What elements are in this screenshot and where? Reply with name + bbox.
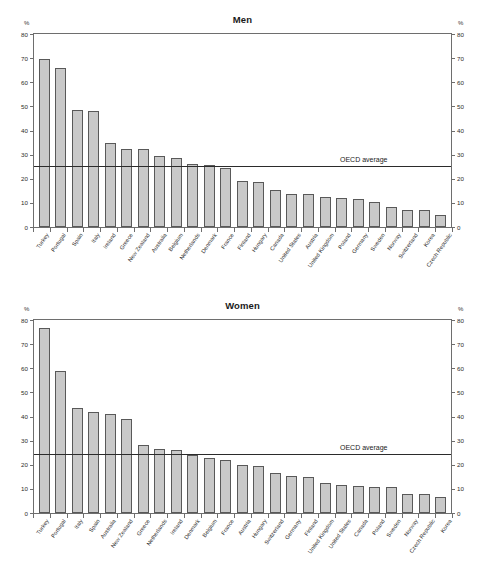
- y-axis-tick-label-left: 70: [14, 55, 28, 62]
- x-axis-labels-women: TurkeyPortugalItalySpainAustraliaNew Zea…: [33, 518, 452, 570]
- bar: [435, 215, 446, 227]
- x-axis-label: Turkey: [36, 518, 51, 536]
- y-axis-unit-left-men: %: [24, 20, 29, 26]
- y-axis-tick-label-right: 50: [457, 103, 471, 110]
- bar: [121, 149, 132, 227]
- x-axis-label: Canada: [352, 518, 368, 538]
- y-axis-unit-left-women: %: [24, 306, 29, 312]
- x-axis-label: Greece: [118, 232, 134, 251]
- bar: [402, 494, 413, 513]
- bar: [39, 59, 50, 227]
- y-axis-tickmark-left: [30, 131, 33, 132]
- x-axis-label: Hungary: [251, 232, 268, 253]
- y-axis-tick-label-right: 40: [457, 413, 471, 420]
- bar: [303, 477, 314, 513]
- y-axis-tick-label-right: 80: [457, 317, 471, 324]
- bar: [72, 110, 83, 227]
- y-axis-tick-label-left: 10: [14, 485, 28, 492]
- y-axis-tickmark-left: [30, 34, 33, 35]
- y-axis-tick-label-left: 80: [14, 317, 28, 324]
- x-axis-label: Sweden: [386, 518, 403, 538]
- y-axis-tickmark-left: [30, 155, 33, 156]
- y-axis-tickmark-left: [30, 179, 33, 180]
- y-axis-tickmark-left: [30, 106, 33, 107]
- y-axis-tick-label-right: 20: [457, 461, 471, 468]
- y-axis-tick-label-right: 30: [457, 151, 471, 158]
- bar: [419, 494, 430, 513]
- y-axis-tick-label-right: 0: [457, 510, 471, 517]
- bar-group-women: [34, 320, 451, 513]
- y-axis-tick-label-right: 30: [457, 437, 471, 444]
- x-axis-label: France: [220, 518, 235, 536]
- y-axis-tick-label-left: 10: [14, 199, 28, 206]
- y-axis-tickmark-left: [30, 417, 33, 418]
- y-axis-tick-label-right: 10: [457, 199, 471, 206]
- bar: [220, 168, 231, 227]
- y-axis-tickmark-right: [452, 106, 455, 107]
- y-axis-tickmark-right: [452, 203, 455, 204]
- oecd-average-label-women: OECD average: [340, 444, 387, 451]
- y-axis-tickmark-left: [30, 465, 33, 466]
- x-axis-label: Belgium: [201, 518, 218, 538]
- bar: [171, 158, 182, 227]
- y-axis-tickmark-right: [452, 368, 455, 369]
- y-axis-tick-label-right: 10: [457, 485, 471, 492]
- x-axis-label: Austria: [303, 232, 318, 250]
- x-axis-label: Spain: [87, 518, 100, 533]
- y-axis-tickmark-left: [30, 58, 33, 59]
- bar: [237, 181, 248, 227]
- plot-area-women: [33, 319, 452, 514]
- x-axis-label: Portugal: [50, 232, 67, 253]
- y-axis-tickmark-left: [30, 227, 33, 228]
- bar: [320, 483, 331, 513]
- bar: [270, 473, 281, 513]
- y-axis-tickmark-right: [452, 155, 455, 156]
- chart-title-women: Women: [0, 300, 485, 311]
- bar: [270, 190, 281, 227]
- x-axis-label: Korea: [439, 518, 453, 534]
- y-axis-tickmark-right: [452, 489, 455, 490]
- bar: [386, 207, 397, 228]
- chart-title-men: Men: [0, 14, 485, 25]
- y-axis-tick-label-left: 20: [14, 461, 28, 468]
- bar: [39, 328, 50, 513]
- y-axis-tickmark-left: [30, 203, 33, 204]
- x-axis-label: Portugal: [50, 518, 67, 539]
- y-axis-tick-label-left: 70: [14, 341, 28, 348]
- y-axis-tick-label-right: 20: [457, 175, 471, 182]
- x-axis-label: Sweden: [369, 232, 386, 252]
- oecd-average-label-men: OECD average: [340, 156, 387, 163]
- x-axis-label: Australia: [150, 232, 168, 254]
- y-axis-tickmark-right: [452, 227, 455, 228]
- y-axis-tickmark-right: [452, 131, 455, 132]
- chart-panel-men: Men % % OECD average TurkeyPortugalSpain…: [0, 0, 485, 286]
- x-axis-tickmark: [452, 514, 453, 518]
- bar: [154, 449, 165, 513]
- x-axis-label: Austria: [236, 518, 251, 536]
- x-axis-label: Turkey: [36, 232, 51, 250]
- x-axis-label: France: [220, 232, 235, 250]
- chart-panel-women: Women % % OECD average TurkeyPortugalIta…: [0, 286, 485, 572]
- bar: [138, 149, 149, 227]
- y-axis-tick-label-right: 60: [457, 79, 471, 86]
- y-axis-tick-label-left: 60: [14, 79, 28, 86]
- y-axis-tick-label-left: 50: [14, 389, 28, 396]
- y-axis-tick-label-left: 40: [14, 127, 28, 134]
- bar: [369, 487, 380, 513]
- x-axis-tickmark: [452, 228, 453, 232]
- y-axis-tick-label-right: 0: [457, 224, 471, 231]
- bar: [303, 194, 314, 227]
- bar: [138, 445, 149, 513]
- bar: [435, 497, 446, 513]
- x-axis-label: Italy: [73, 518, 84, 530]
- y-axis-tickmark-left: [30, 368, 33, 369]
- x-axis-label: Greece: [135, 518, 151, 537]
- oecd-average-line-men: [34, 166, 451, 167]
- y-axis-tick-label-right: 40: [457, 127, 471, 134]
- y-axis-tick-label-left: 0: [14, 224, 28, 231]
- y-axis-tickmark-right: [452, 82, 455, 83]
- bar: [105, 143, 116, 227]
- y-axis-tickmark-left: [30, 344, 33, 345]
- x-axis-label: Denmark: [183, 518, 201, 540]
- y-axis-tickmark-right: [452, 392, 455, 393]
